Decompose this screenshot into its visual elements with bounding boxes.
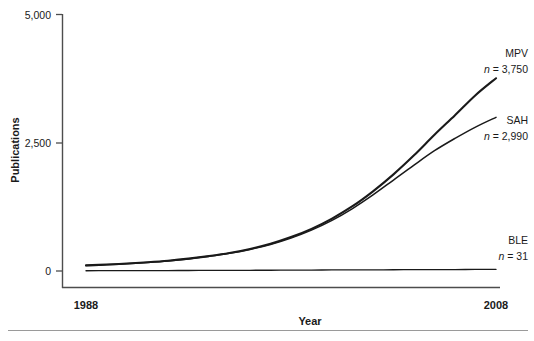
y-tick-label-0: 0 xyxy=(45,265,51,277)
x-axis-title: Year xyxy=(298,315,322,327)
y-axis-title: Publications xyxy=(9,117,21,182)
series-label-ble: BLE xyxy=(508,234,528,246)
series-line-sah xyxy=(86,117,496,265)
series-line-ble xyxy=(86,269,496,270)
y-tick-label-5000: 5,000 xyxy=(25,9,51,21)
series-n-ble: n = 31 xyxy=(499,250,529,262)
series-n-equals-ble: = xyxy=(504,250,516,262)
series-line-mpv xyxy=(86,78,496,265)
series-label-sah: SAH xyxy=(506,114,528,126)
series-n-mpv: n = 3,750 xyxy=(484,63,528,75)
x-tick-label-1988: 1988 xyxy=(74,299,98,311)
series-label-mpv: MPV xyxy=(505,47,528,59)
series-n-value-sah: 2,990 xyxy=(502,130,528,142)
y-tick-label-2500: 2,500 xyxy=(25,137,51,149)
series-n-equals-sah: = xyxy=(490,130,502,142)
x-tick-label-2008: 2008 xyxy=(484,299,508,311)
figure-panel: 5,000 2,500 0 Publications 1988 2008 Yea… xyxy=(0,0,534,341)
series-n-value-mpv: 3,750 xyxy=(502,63,528,75)
series-n-value-ble: 31 xyxy=(516,250,528,262)
series-n-equals-mpv: = xyxy=(490,63,502,75)
publications-line-chart: 5,000 2,500 0 Publications 1988 2008 Yea… xyxy=(0,0,534,341)
series-n-sah: n = 2,990 xyxy=(484,130,528,142)
